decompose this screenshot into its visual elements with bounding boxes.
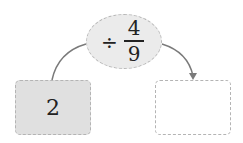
division-sign: ÷: [101, 30, 118, 54]
answer-box[interactable]: [155, 80, 231, 135]
input-box: 2: [15, 80, 91, 135]
arrowhead-icon: [189, 73, 197, 80]
denominator: 9: [124, 43, 144, 65]
input-value: 2: [46, 95, 60, 120]
numerator: 4: [124, 17, 144, 39]
fraction: 4 9: [124, 17, 144, 65]
incoming-arc: [52, 44, 86, 80]
outgoing-arc: [162, 44, 193, 76]
